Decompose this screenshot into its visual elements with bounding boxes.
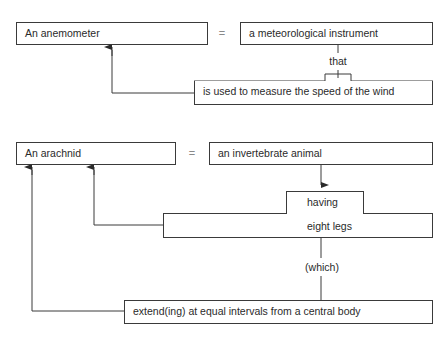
term-text: An anemometer [25, 27, 100, 39]
equals-sign: = [219, 27, 225, 39]
term-box-anemometer: An anemometer [16, 22, 208, 45]
genus-box: a meteorological instrument [240, 22, 433, 45]
genus-box: an invertebrate animal [209, 142, 433, 165]
connector-label-that: that [329, 55, 347, 67]
connector-tab-having: having [286, 191, 364, 214]
tab-join [287, 212, 363, 215]
differentia-text: is used to measure the speed of the wind [203, 85, 394, 97]
feature-text: eight legs [307, 220, 352, 232]
differentia-text: extend(ing) at equal intervals from a ce… [133, 305, 361, 317]
differentia-box: is used to measure the speed of the wind [194, 81, 433, 105]
genus-text: a meteorological instrument [249, 27, 378, 39]
genus-text: an invertebrate animal [218, 147, 322, 159]
connector-lines [0, 0, 448, 342]
connector-label-having: having [307, 196, 338, 208]
feature-box: eight legs [163, 213, 433, 238]
term-box-arachnid: An arachnid [16, 142, 176, 165]
term-text: An arachnid [25, 147, 81, 159]
differentia-box: extend(ing) at equal intervals from a ce… [124, 300, 433, 324]
connector-label-which: (which) [305, 261, 339, 273]
equals-sign: = [189, 147, 195, 159]
